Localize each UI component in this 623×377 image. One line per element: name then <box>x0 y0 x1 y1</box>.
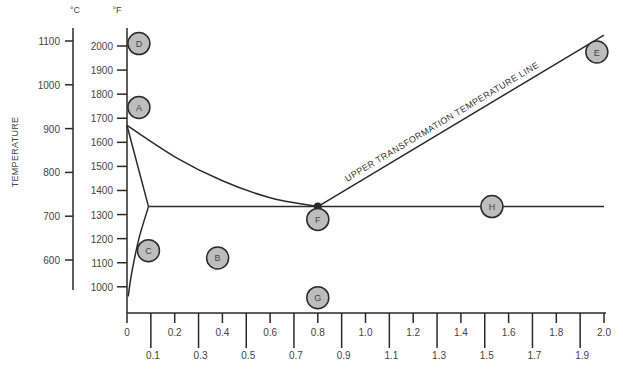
x-tick-label: 0.5 <box>241 350 255 361</box>
x-tick-label: 0.2 <box>168 327 182 338</box>
fahrenheit-tick-label: 1300 <box>91 210 114 221</box>
fahrenheit-tick-label: 1400 <box>91 185 114 196</box>
upper-transformation-line-label: UPPER TRANSFORMATION TEMPERATURE LINE <box>343 60 540 184</box>
x-tick-label: 0.8 <box>311 327 325 338</box>
fahrenheit-tick-label: 1200 <box>91 234 114 245</box>
region-marker-d: D <box>128 33 150 55</box>
x-tick-label: 0.9 <box>337 350 351 361</box>
x-tick-label: 2.0 <box>597 327 611 338</box>
region-marker-g: G <box>307 287 329 309</box>
marker-letter: A <box>136 103 142 113</box>
labels: °C °F TEMPERATURE UPPER TRANSFORMATION T… <box>10 5 541 187</box>
x-tick-label: 0.6 <box>263 327 277 338</box>
region-marker-c: C <box>137 240 159 262</box>
x-tick-label: 1.6 <box>502 327 516 338</box>
marker-letter: H <box>489 202 496 212</box>
region-marker-a: A <box>128 96 150 118</box>
x-tick-label: 0.4 <box>215 327 229 338</box>
x-tick-label: 1.1 <box>384 350 398 361</box>
fahrenheit-tick-label: 1500 <box>91 161 114 172</box>
marker-letter: D <box>136 39 143 49</box>
x-tick-label: 0.3 <box>194 350 208 361</box>
fahrenheit-tick-label: 1000 <box>91 282 114 293</box>
x-tick-label: 1.3 <box>432 350 446 361</box>
celsius-tick-label: 1100 <box>38 36 60 47</box>
marker-letter: C <box>145 246 152 256</box>
fahrenheit-tick-label: 1600 <box>91 137 114 148</box>
marker-letter: G <box>314 293 321 303</box>
x-tick-label: 1.4 <box>454 327 468 338</box>
iron-carbon-diagram: 1100100090080070060020001900180017001600… <box>0 0 623 377</box>
fahrenheit-tick-label: 1100 <box>91 258 113 269</box>
a3-line <box>127 125 318 206</box>
marker-letter: B <box>215 253 221 263</box>
region-marker-h: H <box>481 196 503 218</box>
celsius-tick-label: 800 <box>43 167 60 178</box>
x-tick-label: 1.9 <box>575 350 589 361</box>
celsius-tick-label: 900 <box>43 124 60 135</box>
region-marker-b: B <box>207 247 229 269</box>
marker-letter: F <box>315 215 321 225</box>
fahrenheit-tick-label: 1700 <box>91 113 114 124</box>
region-marker-e: E <box>586 41 608 63</box>
fahrenheit-tick-label: 1800 <box>91 89 114 100</box>
x-tick-label: 0.7 <box>289 350 303 361</box>
celsius-unit-label: °C <box>70 5 81 15</box>
y-axis-title: TEMPERATURE <box>10 117 20 188</box>
x-tick-label: 1.5 <box>480 350 494 361</box>
x-tick-label: 1.7 <box>527 350 541 361</box>
x-tick-label: 1.0 <box>359 327 373 338</box>
x-tick-label: 0.1 <box>146 350 160 361</box>
axes: 1100100090080070060020001900180017001600… <box>38 28 612 361</box>
fahrenheit-tick-label: 2000 <box>91 41 114 52</box>
celsius-tick-label: 1000 <box>38 80 61 91</box>
celsius-tick-label: 600 <box>43 255 60 266</box>
celsius-tick-label: 700 <box>43 211 60 222</box>
upper-transformation-line <box>318 35 604 206</box>
fahrenheit-unit-label: °F <box>112 5 122 15</box>
x-tick-label: 1.8 <box>549 327 563 338</box>
x-tick-label: 1.2 <box>406 327 420 338</box>
x-tick-label: 0 <box>124 327 130 338</box>
marker-letter: E <box>594 48 600 58</box>
region-marker-f: F <box>307 208 329 230</box>
fahrenheit-tick-label: 1900 <box>91 65 114 76</box>
